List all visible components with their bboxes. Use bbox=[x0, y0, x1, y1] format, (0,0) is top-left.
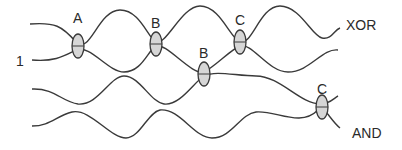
gate-label-b-lower: B bbox=[199, 45, 208, 61]
gate-label-c-upper: C bbox=[235, 12, 245, 28]
gate-label-a: A bbox=[73, 10, 83, 26]
output-label-and: AND bbox=[352, 125, 382, 141]
wire-4 bbox=[32, 109, 340, 138]
input-label: 1 bbox=[16, 53, 24, 69]
gate-label-c-lower: C bbox=[317, 81, 327, 97]
diagram-canvas: A B B C C 1 XOR AND bbox=[0, 0, 402, 150]
output-label-xor: XOR bbox=[346, 17, 376, 33]
wire-3 bbox=[32, 73, 338, 104]
gate-label-b-upper: B bbox=[151, 15, 160, 31]
